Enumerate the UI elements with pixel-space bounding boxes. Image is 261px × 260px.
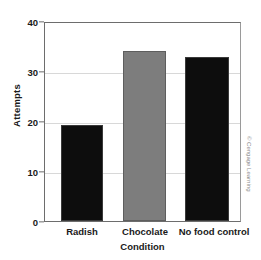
x-tick-label-radish: Radish	[48, 226, 116, 237]
copyright-credit: © Cengage Learning	[246, 136, 252, 226]
bar-chart-figure: Attempts 40 30 20 10 0 Radish Chocolate …	[0, 0, 261, 260]
x-axis-title: Condition	[44, 241, 241, 252]
bar-group	[45, 23, 240, 221]
plot-area	[44, 22, 241, 222]
bar-no-food-control	[185, 57, 229, 221]
bar-chocolate	[123, 51, 166, 222]
bar-radish	[61, 125, 103, 222]
y-tick-label-30: 30	[14, 67, 38, 78]
x-tick-label-no-food-control: No food control	[170, 226, 258, 237]
y-tick-label-20: 20	[14, 117, 38, 128]
y-tick-label-0: 0	[14, 217, 38, 228]
y-tick-label-10: 10	[14, 167, 38, 178]
y-tick-label-40: 40	[14, 17, 38, 28]
y-axis-title: Attempts	[11, 66, 22, 146]
